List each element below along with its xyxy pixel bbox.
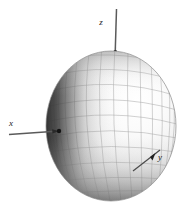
axis-z (113, 9, 117, 54)
shade-top (46, 51, 176, 201)
ellipsoid-body (41, 42, 177, 201)
origin-marker (57, 129, 61, 133)
axis-label-y: y (157, 152, 162, 162)
ellipsoid-mesh (41, 42, 177, 201)
axis-label-x: x (8, 118, 13, 128)
axis-z-line (115, 9, 116, 53)
ellipsoid-diagram: z x y (0, 0, 188, 207)
figure-canvas: z x y (0, 0, 188, 207)
axis-label-z: z (98, 17, 103, 27)
